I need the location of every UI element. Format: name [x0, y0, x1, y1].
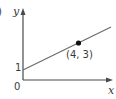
x-axis-label: x [108, 85, 114, 96]
point-marker [76, 40, 81, 45]
origin-label: 0 [14, 82, 20, 92]
y-axis-arrow-icon [21, 8, 26, 15]
y-axis-label: y [13, 6, 19, 17]
graph-figure: ) y x 0 1 (4, 3) [0, 0, 116, 99]
x-axis-arrow-icon [106, 78, 113, 83]
point-label: (4, 3) [66, 50, 93, 60]
cropped-label-fragment: ) [0, 6, 2, 17]
y-intercept-label: 1 [15, 63, 21, 73]
